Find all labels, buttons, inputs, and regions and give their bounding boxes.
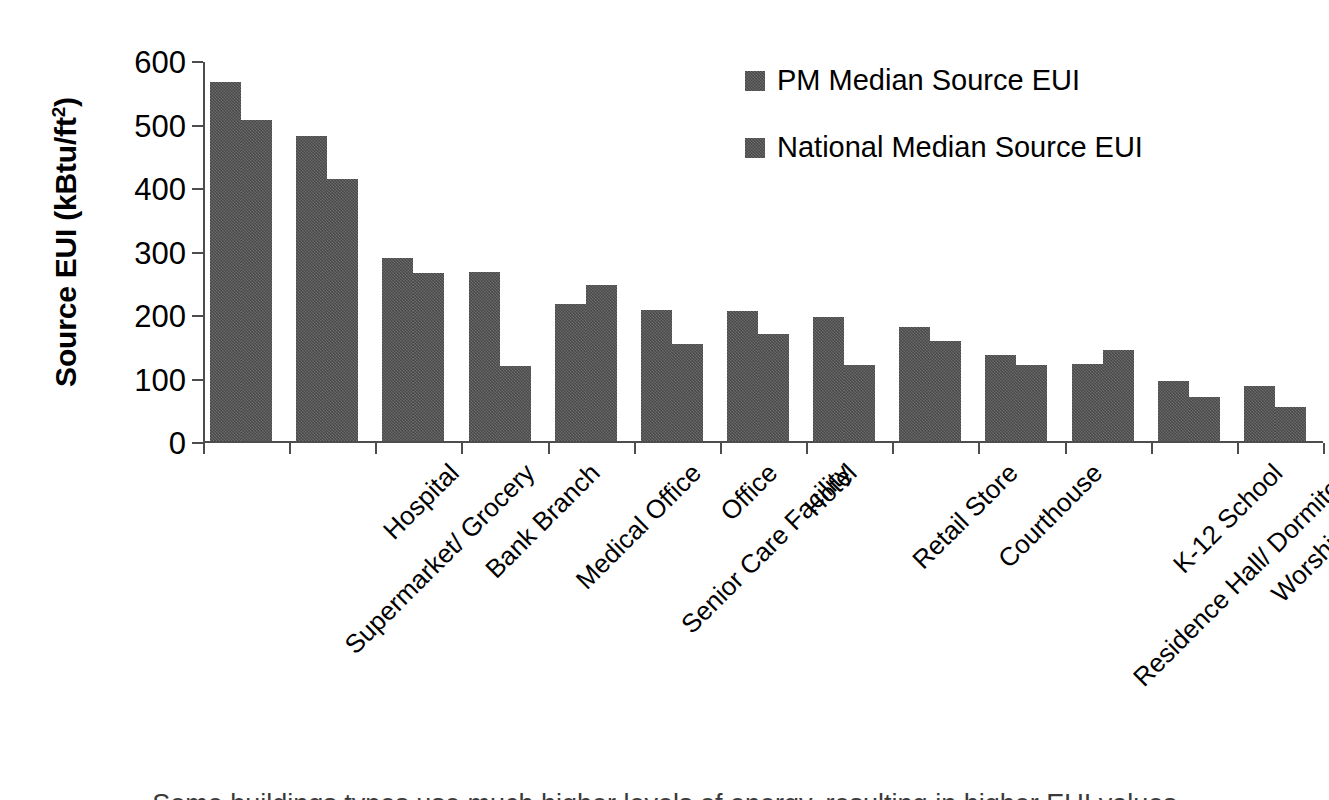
- y-axis-tick-mark: [192, 125, 203, 127]
- y-axis-tick-label: 200: [100, 301, 186, 332]
- y-axis-tick-label: 500: [100, 110, 186, 141]
- y-axis-tick-labels: 6005004003002001000: [100, 0, 186, 800]
- bar-national-median[interactable]: [844, 365, 875, 441]
- y-axis-tick-mark: [192, 61, 203, 63]
- bar-pm-median[interactable]: [727, 311, 758, 441]
- y-axis-tick-label: 300: [100, 237, 186, 268]
- y-axis-title-text: Source EUI (kBtu/ft: [49, 117, 82, 387]
- y-axis-tick-mark: [192, 442, 203, 444]
- bar-pm-median[interactable]: [469, 272, 500, 441]
- bar-national-median[interactable]: [241, 120, 272, 441]
- bar-group: [1158, 60, 1220, 441]
- bar-national-median[interactable]: [930, 341, 961, 441]
- legend-item[interactable]: PM Median Source EUI: [745, 66, 1165, 95]
- bar-group: [469, 60, 531, 441]
- bar-pm-median[interactable]: [382, 258, 413, 442]
- bar-group: [210, 60, 272, 441]
- x-axis-tick-label: Hotel: [800, 459, 862, 521]
- y-axis-line: [203, 62, 205, 444]
- bar-pm-median[interactable]: [813, 317, 844, 441]
- y-axis-tick-label: 0: [100, 428, 186, 459]
- bar-group: [641, 60, 703, 441]
- y-axis-title-superscript: 2: [48, 107, 69, 117]
- y-axis-tick-label: 100: [100, 364, 186, 395]
- bar-national-median[interactable]: [672, 344, 703, 441]
- bar-pm-median[interactable]: [1244, 386, 1275, 441]
- bar-pm-median[interactable]: [555, 304, 586, 441]
- y-axis-tick-label: 600: [100, 47, 186, 78]
- bar-national-median[interactable]: [758, 334, 789, 441]
- y-axis-tick-mark: [192, 188, 203, 190]
- bar-group: [1244, 60, 1306, 441]
- bar-pm-median[interactable]: [210, 82, 241, 441]
- bar-pm-median[interactable]: [899, 327, 930, 441]
- y-axis-tick-label: 400: [100, 174, 186, 205]
- bar-national-median[interactable]: [1275, 407, 1306, 441]
- y-axis-tick-mark: [192, 252, 203, 254]
- legend-item-label: National Median Source EUI: [777, 133, 1143, 162]
- bar-group: [382, 60, 444, 441]
- legend-swatch-national: [745, 138, 765, 158]
- bar-national-median[interactable]: [586, 285, 617, 441]
- legend-swatch-pm: [745, 71, 765, 91]
- chart-caption: Some buildings types use much higher lev…: [0, 789, 1329, 800]
- bar-national-median[interactable]: [500, 366, 531, 441]
- bar-national-median[interactable]: [1189, 397, 1220, 441]
- bar-national-median[interactable]: [1016, 365, 1047, 441]
- bar-pm-median[interactable]: [296, 136, 327, 441]
- y-axis-tick-mark: [192, 379, 203, 381]
- bar-pm-median[interactable]: [1072, 364, 1103, 441]
- y-axis-title: Source EUI (kBtu/ft2): [49, 72, 83, 412]
- bar-national-median[interactable]: [327, 179, 358, 441]
- x-axis-tick-labels: Supermarket/ GroceryHospitalBank BranchM…: [203, 443, 1323, 783]
- legend-item-label: PM Median Source EUI: [777, 66, 1080, 95]
- y-axis-title-suffix: ): [49, 97, 82, 107]
- bar-national-median[interactable]: [413, 273, 444, 441]
- bar-pm-median[interactable]: [641, 310, 672, 441]
- legend-item[interactable]: National Median Source EUI: [745, 133, 1165, 162]
- chart-legend: PM Median Source EUINational Median Sour…: [745, 66, 1165, 200]
- bar-group: [296, 60, 358, 441]
- x-axis-tick-mark: [1323, 443, 1325, 454]
- bar-group: [555, 60, 617, 441]
- bar-national-median[interactable]: [1103, 350, 1134, 441]
- bar-chart: Source EUI (kBtu/ft2) 600500400300200100…: [0, 0, 1329, 800]
- y-axis-tick-mark: [192, 315, 203, 317]
- bar-pm-median[interactable]: [1158, 381, 1189, 441]
- bar-pm-median[interactable]: [985, 355, 1016, 441]
- x-axis-tick-label: Office: [716, 459, 783, 526]
